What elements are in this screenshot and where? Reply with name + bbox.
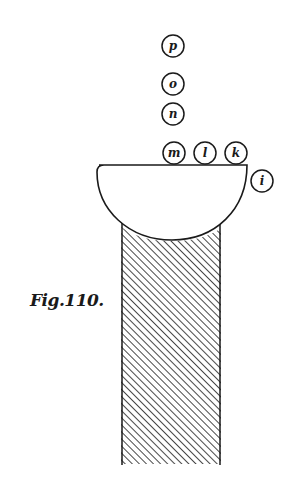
ball-i: i xyxy=(251,170,273,192)
ball-label: n xyxy=(169,107,178,121)
ball-k: k xyxy=(225,142,247,164)
ball-o: o xyxy=(162,73,184,95)
ball-label: p xyxy=(169,39,178,53)
hemispherical-bowl xyxy=(97,165,247,240)
ball-m: m xyxy=(163,142,185,164)
figure-diagram: ponmlki xyxy=(0,0,293,501)
figure-caption: Fig.110. xyxy=(30,290,104,310)
ball-p: p xyxy=(162,35,184,57)
ball-label: o xyxy=(169,77,177,91)
ball-label: k xyxy=(232,146,240,160)
ball-label: i xyxy=(260,174,265,188)
ball-n: n xyxy=(162,103,184,125)
ball-l: l xyxy=(194,142,216,164)
ball-label: l xyxy=(203,146,208,160)
ball-label: m xyxy=(168,146,181,160)
